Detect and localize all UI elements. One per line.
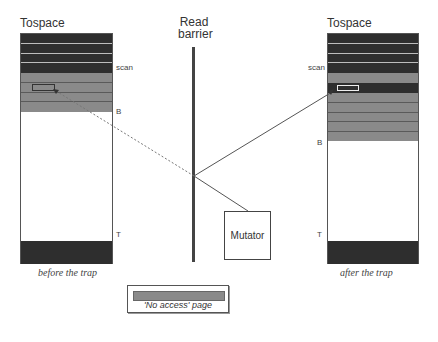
legend-label: 'No access' page — [128, 300, 228, 310]
left-arrow-icon — [53, 89, 59, 94]
dotted-pointer-line — [56, 91, 194, 176]
legend: 'No access' page — [127, 285, 229, 313]
mutator-line — [194, 176, 248, 211]
solid-pointer-line — [194, 92, 332, 176]
